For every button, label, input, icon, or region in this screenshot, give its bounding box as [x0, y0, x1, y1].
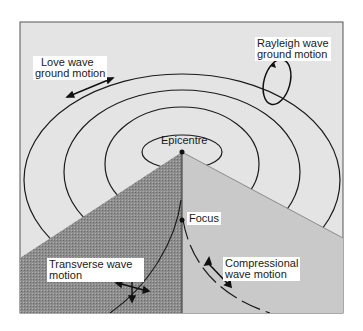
compressional-wave-label: Compressional wave motion — [223, 257, 300, 281]
focus-label: Focus — [187, 212, 221, 225]
rayleigh-wave-label: Rayleigh wave ground motion — [255, 37, 331, 61]
love-wave-label-line2: ground motion — [35, 68, 105, 79]
rayleigh-wave-label-line2: ground motion — [257, 49, 329, 60]
transverse-wave-label-line2: motion — [49, 270, 132, 281]
transverse-wave-label: Transverse wave motion — [47, 258, 144, 282]
focus-point — [180, 218, 185, 223]
compressional-wave-label-line2: wave motion — [225, 269, 298, 280]
epicentre-point — [180, 150, 185, 155]
love-wave-label: Love wave ground motion — [33, 56, 107, 80]
epicentre-label: Epicentre — [159, 134, 209, 147]
